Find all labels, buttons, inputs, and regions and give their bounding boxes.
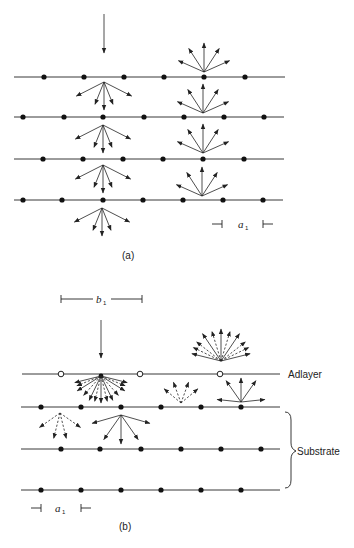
- substrate-label: Substrate: [297, 446, 340, 457]
- beam-arrow-icon: [75, 376, 101, 383]
- panel-a-caption: (a): [122, 250, 134, 261]
- adlayer-label: Adlayer: [288, 369, 323, 380]
- adlayer-transmitted-fan: [75, 374, 127, 403]
- beam-arrow-icon: [121, 415, 150, 423]
- atom-filled: [178, 446, 183, 451]
- beam-arrow-icon: [241, 399, 265, 402]
- a1-spacing-label-a: a: [238, 218, 244, 230]
- atom-filled: [118, 487, 123, 492]
- beam-arrow-icon: [101, 376, 127, 383]
- atom-filled: [260, 197, 265, 202]
- beam-arrow-icon: [75, 125, 103, 139]
- beam-arrow-icon: [102, 208, 111, 230]
- atom-filled: [81, 74, 86, 79]
- transmitted-beam-fan: [75, 165, 130, 193]
- beam-arrow-icon: [95, 82, 104, 104]
- beam-arrow-icon: [217, 399, 241, 402]
- dashed-transmitted-fan: [40, 413, 81, 438]
- panel-b-caption: (b): [119, 521, 131, 532]
- atom-filled: [78, 404, 83, 409]
- dashed-reflected-fan: [164, 382, 198, 403]
- beam-arrow-icon: [93, 208, 102, 230]
- atom-filled: [261, 114, 266, 119]
- atom-filled: [20, 114, 25, 119]
- dashed-beam-arrow-icon: [212, 331, 221, 361]
- atom-filled: [38, 487, 43, 492]
- beam-arrow-icon: [94, 125, 103, 147]
- beam-arrow-icon: [103, 165, 131, 179]
- atom-filled: [121, 74, 126, 79]
- beam-arrow-icon: [226, 381, 241, 402]
- atom-filled: [242, 74, 247, 79]
- atom-filled: [198, 404, 203, 409]
- a1-spacing-subscript-a: 1: [245, 225, 249, 231]
- atom-filled: [238, 404, 243, 409]
- atom-filled: [141, 114, 146, 119]
- atom-open: [217, 371, 223, 377]
- atom-filled: [238, 487, 243, 492]
- dashed-beam-arrow-icon: [54, 413, 60, 438]
- reflected-beam-fan: [177, 124, 228, 153]
- transmitted-beam-fan: [76, 82, 131, 110]
- beam-arrow-icon: [75, 165, 103, 179]
- dashed-beam-arrow-icon: [221, 331, 230, 361]
- atom-filled: [181, 114, 186, 119]
- beam-arrow-icon: [103, 165, 112, 187]
- b1-spacing-label: b: [96, 293, 102, 305]
- substrate-reflected-fan: [217, 378, 265, 402]
- atom-filled: [58, 446, 63, 451]
- atom-filled: [40, 156, 45, 161]
- atom-filled: [78, 487, 83, 492]
- transmitted-beam-fan: [75, 125, 130, 153]
- atom-filled: [220, 197, 225, 202]
- atom-filled: [160, 156, 165, 161]
- a1-spacing-subscript-b: 1: [62, 509, 66, 515]
- atom-filled: [59, 197, 64, 202]
- atom-filled: [80, 156, 85, 161]
- atom-filled: [100, 114, 105, 119]
- dashed-beam-arrow-icon: [181, 389, 198, 403]
- atom-filled: [20, 197, 25, 202]
- adlayer-reflected-fan: [192, 329, 250, 361]
- atom-filled: [41, 74, 46, 79]
- beam-arrow-icon: [102, 208, 130, 222]
- panel-a: [14, 14, 285, 236]
- atom-filled: [140, 197, 145, 202]
- a1-spacing-label-b: a: [55, 502, 61, 514]
- atom-filled: [100, 197, 105, 202]
- beam-arrow-icon: [104, 415, 121, 440]
- atom-open: [137, 371, 143, 377]
- atom-filled: [61, 114, 66, 119]
- transmitted-beam-fan: [74, 208, 129, 236]
- atom-filled: [221, 114, 226, 119]
- dashed-beam-arrow-icon: [60, 413, 66, 438]
- atom-filled: [138, 446, 143, 451]
- substrate-brace: [285, 412, 296, 488]
- dashed-beam-arrow-icon: [164, 389, 181, 403]
- atom-filled: [158, 404, 163, 409]
- atom-filled: [97, 446, 102, 451]
- atom-filled: [120, 156, 125, 161]
- atom-filled: [158, 487, 163, 492]
- beam-arrow-icon: [92, 415, 121, 423]
- b1-spacing-subscript: 1: [103, 300, 107, 306]
- atom-filled: [180, 197, 185, 202]
- atom-filled: [198, 487, 203, 492]
- substrate-transmitted-fan: [92, 415, 150, 444]
- beam-arrow-icon: [74, 208, 102, 222]
- atom-filled: [218, 446, 223, 451]
- atom-filled: [258, 446, 263, 451]
- atom-filled: [38, 404, 43, 409]
- atom-filled: [201, 74, 206, 79]
- reflected-beam-fan: [177, 84, 228, 113]
- beam-arrow-icon: [76, 82, 104, 96]
- atom-filled: [200, 156, 205, 161]
- beam-arrow-icon: [241, 381, 256, 402]
- beam-arrow-icon: [103, 125, 131, 139]
- atom-open: [58, 371, 64, 377]
- beam-arrow-icon: [104, 82, 132, 96]
- reflected-beam-fan: [178, 43, 229, 72]
- atom-filled: [118, 404, 123, 409]
- beam-arrow-icon: [103, 125, 112, 147]
- beam-arrow-icon: [94, 165, 103, 187]
